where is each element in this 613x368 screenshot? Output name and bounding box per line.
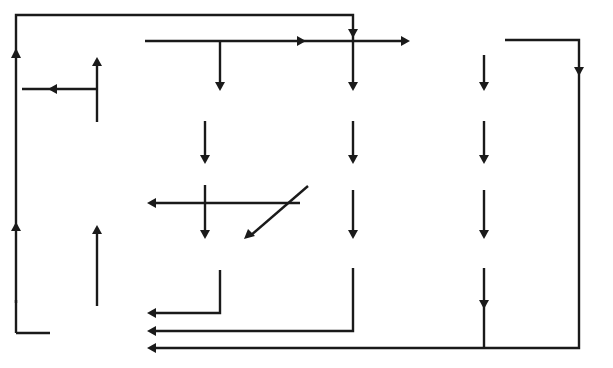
- arrow-down-icon: [200, 230, 210, 239]
- arrow-down-icon: [215, 82, 225, 91]
- arrow-down-icon: [348, 155, 358, 164]
- arrow-down-icon: [200, 155, 210, 164]
- arrow-left-icon: [147, 198, 156, 208]
- arrow-right-icon: [401, 36, 410, 46]
- circular-flow-diagram: [0, 0, 613, 368]
- arrow-right-icon: [297, 36, 306, 46]
- arrow-down-icon: [479, 155, 489, 164]
- arrow-down-icon: [348, 29, 358, 38]
- arrow-down-icon: [479, 300, 489, 309]
- arrow-down-icon: [479, 82, 489, 91]
- arrow-left-icon: [147, 326, 156, 336]
- arrow-left-icon: [48, 84, 57, 94]
- arrow-left-icon: [147, 343, 156, 353]
- arrow-up-icon: [92, 225, 102, 234]
- arrow-down-icon: [574, 67, 584, 76]
- arrow-up-icon: [11, 222, 21, 231]
- arrow-down-icon: [479, 230, 489, 239]
- arrow-up-icon: [92, 57, 102, 66]
- arrow-down-icon: [348, 82, 358, 91]
- arrow-left-icon: [147, 308, 156, 318]
- arrow-down-icon: [348, 230, 358, 239]
- arrow-up-icon: [11, 48, 21, 58]
